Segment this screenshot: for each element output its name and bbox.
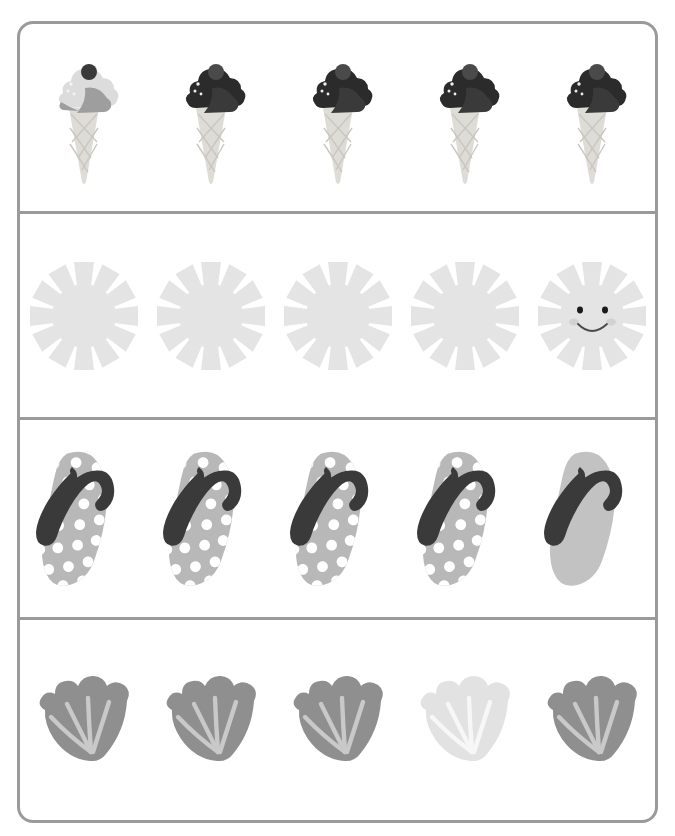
worksheet-row-ice-cream <box>20 24 655 214</box>
sun-icon <box>155 260 267 372</box>
sun-item[interactable] <box>405 214 525 417</box>
flip-flop-plain-icon <box>540 444 644 594</box>
ice-cream-cone-item[interactable] <box>405 24 525 211</box>
sun-item[interactable] <box>278 214 398 417</box>
sun-item[interactable] <box>532 214 652 417</box>
ice-cream-cone-icon <box>422 48 508 188</box>
worksheet-row-sun <box>20 214 655 420</box>
sun-item[interactable] <box>151 214 271 417</box>
sea-shell-item[interactable] <box>532 620 652 820</box>
worksheet-row-flip-flop <box>20 420 655 620</box>
ice-cream-cone-icon <box>168 48 254 188</box>
sun-item[interactable] <box>24 214 144 417</box>
ice-cream-cone-item[interactable] <box>278 24 398 211</box>
flip-flop-icon <box>286 444 390 594</box>
sea-shell-item[interactable] <box>151 620 271 820</box>
sea-shell-icon <box>31 670 137 770</box>
flip-flop-icon <box>159 444 263 594</box>
ice-cream-cone-item[interactable] <box>151 24 271 211</box>
sun-icon <box>28 260 140 372</box>
flip-flop-item[interactable] <box>151 420 271 617</box>
flip-flop-item[interactable] <box>278 420 398 617</box>
flip-flop-item[interactable] <box>405 420 525 617</box>
sun-icon <box>409 260 521 372</box>
sun-smiling-face-icon <box>536 260 648 372</box>
flip-flop-item[interactable] <box>532 420 652 617</box>
sea-shell-item[interactable] <box>24 620 144 820</box>
sun-icon <box>282 260 394 372</box>
sea-shell-icon <box>285 670 391 770</box>
ice-cream-cone-item[interactable] <box>24 24 144 211</box>
flip-flop-icon <box>32 444 136 594</box>
sea-shell-icon <box>539 670 645 770</box>
ice-cream-cone-icon <box>41 48 127 188</box>
sea-shell-light-icon <box>412 670 518 770</box>
worksheet-row-sea-shell <box>20 620 655 820</box>
ice-cream-cone-item[interactable] <box>532 24 652 211</box>
ice-cream-cone-icon <box>295 48 381 188</box>
sea-shell-icon <box>158 670 264 770</box>
sea-shell-item[interactable] <box>278 620 398 820</box>
worksheet-frame <box>17 21 658 823</box>
flip-flop-item[interactable] <box>24 420 144 617</box>
flip-flop-icon <box>413 444 517 594</box>
sea-shell-item[interactable] <box>405 620 525 820</box>
ice-cream-cone-icon <box>549 48 635 188</box>
